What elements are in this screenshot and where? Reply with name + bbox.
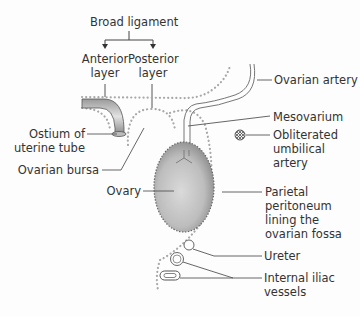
label-posterior-layer: Posterior layer <box>128 52 178 80</box>
label-ovarian-artery: Ovarian artery <box>274 73 358 87</box>
label-obliterated-umbilical-artery: Obliterated umbilical artery <box>273 128 338 170</box>
arrow-icon <box>150 44 156 49</box>
iliac-artery-icon <box>171 253 184 266</box>
label-ovary: Ovary <box>95 184 141 198</box>
label-ostium: Ostium of uterine tube <box>10 127 85 155</box>
iliac-vein-icon <box>160 271 180 280</box>
uterine-tube <box>82 99 124 134</box>
label-broad-ligament: Broad ligament <box>90 15 170 29</box>
label-mesovarium: Mesovarium <box>273 110 343 124</box>
label-ovarian-bursa: Ovarian bursa <box>0 163 99 177</box>
obliterated-umbilical-artery-icon <box>235 130 245 140</box>
label-ureter: Ureter <box>264 249 300 263</box>
label-parietal-peritoneum: Parietal peritoneum lining the ovarian f… <box>265 185 342 241</box>
label-internal-iliac-vessels: Internal iliac vessels <box>264 271 335 299</box>
broad-ligament-bracket <box>105 31 153 45</box>
label-anterior-layer: Anterior layer <box>80 52 130 80</box>
arrow-icon <box>102 44 108 49</box>
ureter-icon <box>184 240 194 250</box>
